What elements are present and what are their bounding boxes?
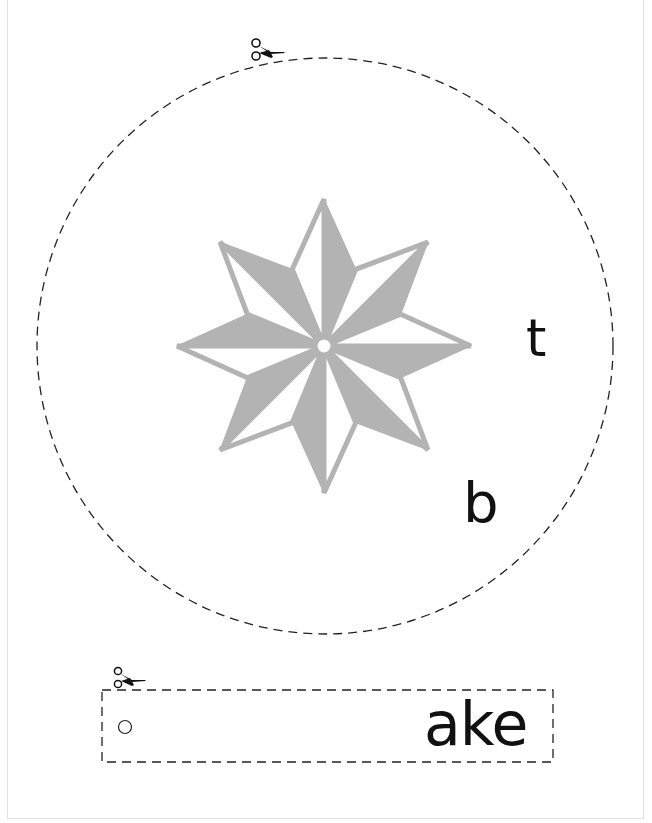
wheel-letter-b: b <box>463 475 499 531</box>
scissors-icon <box>114 667 146 687</box>
star-decoration <box>177 199 471 493</box>
worksheet-canvas <box>0 0 652 823</box>
pivot-hole <box>119 721 132 734</box>
strip-word-ending: ake <box>424 694 527 754</box>
wheel-letter-t: t <box>526 312 546 364</box>
scissors-icon <box>252 39 285 60</box>
star-center-hole <box>318 340 331 353</box>
